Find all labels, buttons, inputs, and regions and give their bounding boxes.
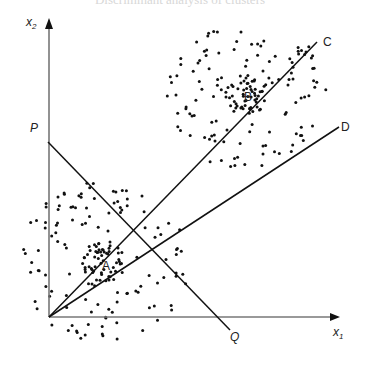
- data-point: [315, 81, 318, 84]
- data-point: [170, 309, 173, 312]
- data-point: [288, 78, 291, 81]
- data-point: [233, 164, 236, 167]
- data-point: [297, 50, 300, 53]
- data-point: [107, 308, 110, 311]
- data-point: [215, 119, 218, 122]
- data-point: [165, 258, 168, 261]
- data-point: [235, 102, 238, 105]
- data-point: [120, 251, 123, 254]
- data-point: [243, 79, 246, 82]
- data-point: [242, 107, 245, 110]
- data-point: [212, 30, 215, 33]
- data-point: [97, 226, 100, 229]
- data-point: [153, 305, 156, 308]
- data-point: [37, 249, 40, 252]
- data-point: [176, 112, 179, 115]
- data-point: [245, 77, 248, 80]
- data-point: [300, 126, 303, 129]
- data-point: [148, 306, 151, 309]
- data-point: [292, 78, 295, 81]
- data-point: [236, 87, 239, 90]
- scatter-points: [22, 30, 327, 341]
- data-point: [71, 218, 74, 221]
- data-point: [93, 197, 96, 200]
- data-point: [148, 274, 151, 277]
- data-point: [116, 338, 119, 341]
- data-point: [118, 260, 121, 263]
- data-point: [189, 134, 192, 137]
- data-point: [257, 95, 260, 98]
- data-point: [88, 265, 91, 268]
- data-point: [271, 81, 274, 84]
- data-point: [101, 334, 104, 337]
- data-point: [50, 324, 53, 327]
- data-point: [116, 291, 119, 294]
- line-pq: [48, 142, 230, 330]
- data-point: [57, 208, 60, 211]
- data-point: [116, 200, 119, 203]
- data-point: [302, 139, 305, 142]
- data-point: [114, 191, 117, 194]
- data-point: [70, 206, 73, 209]
- data-point: [65, 294, 68, 297]
- data-point: [205, 49, 208, 52]
- data-point: [198, 80, 201, 83]
- data-point: [239, 74, 242, 77]
- data-point: [84, 222, 87, 225]
- data-point: [297, 52, 300, 55]
- data-point: [300, 97, 303, 100]
- data-point: [169, 75, 172, 78]
- point-label-d: D: [341, 121, 350, 133]
- data-point: [194, 99, 197, 102]
- data-point: [57, 196, 60, 199]
- data-point: [125, 189, 128, 192]
- data-point: [113, 201, 116, 204]
- data-point: [56, 222, 59, 225]
- data-point: [89, 249, 92, 252]
- data-point: [75, 330, 78, 333]
- data-point: [200, 88, 203, 91]
- data-point: [210, 121, 213, 124]
- data-point: [205, 54, 208, 57]
- data-point: [263, 99, 266, 102]
- data-point: [240, 30, 243, 33]
- data-point: [81, 223, 84, 226]
- data-point: [224, 91, 227, 94]
- data-point: [258, 108, 261, 111]
- data-point: [231, 94, 234, 97]
- data-point: [307, 45, 310, 48]
- data-point: [184, 107, 187, 110]
- data-point: [233, 157, 236, 160]
- data-point: [229, 165, 232, 168]
- data-point: [179, 129, 182, 132]
- data-point: [254, 88, 257, 91]
- data-point: [253, 92, 256, 95]
- data-point: [108, 247, 111, 250]
- data-point: [29, 221, 32, 224]
- data-point: [96, 303, 99, 306]
- data-point: [91, 283, 94, 286]
- data-point: [90, 311, 93, 314]
- data-point: [216, 84, 219, 87]
- data-point: [300, 49, 303, 52]
- data-point: [84, 298, 87, 301]
- data-point: [250, 43, 253, 46]
- data-point: [175, 74, 178, 77]
- data-point: [193, 114, 196, 117]
- data-point: [303, 96, 306, 99]
- data-point: [227, 86, 230, 89]
- data-point: [143, 210, 146, 213]
- projection-lines: [48, 42, 339, 330]
- data-point: [209, 160, 212, 163]
- data-point: [220, 159, 223, 162]
- data-point: [103, 251, 106, 254]
- data-point: [22, 248, 25, 251]
- data-point: [262, 40, 265, 43]
- data-point: [117, 251, 120, 254]
- data-point: [154, 236, 157, 239]
- data-point: [210, 135, 213, 138]
- data-point: [267, 77, 270, 80]
- data-point: [139, 285, 142, 288]
- data-point: [156, 319, 159, 322]
- data-point: [251, 123, 254, 126]
